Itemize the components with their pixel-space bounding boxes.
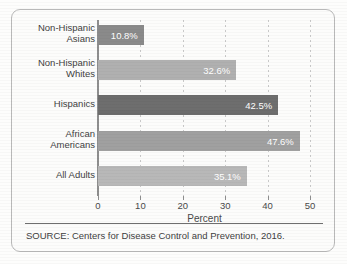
category-label: Non-Hispanic Whites [0,57,95,79]
bar-value-label: 35.1% [214,170,241,181]
category-label: Hispanics [0,98,95,109]
bar: 35.1% [98,166,247,186]
x-tick-label-50: 50 [295,200,325,211]
bar-value-label: 47.6% [267,135,294,146]
bar-value-label: 42.5% [245,100,272,111]
x-tick-label-40: 40 [253,200,283,211]
bar-row: Non-Hispanic Whites32.6% [12,56,336,91]
bar-value-label: 32.6% [203,65,230,76]
bar-row: Hispanics42.5% [12,91,336,126]
bar: 42.5% [98,95,278,115]
category-label: African Americans [0,128,95,150]
bar: 32.6% [98,60,236,80]
bar-row: All Adults35.1% [12,162,336,197]
category-label: All Adults [0,169,95,180]
bar: 47.6% [98,131,300,151]
footer-divider [25,223,323,224]
source-note: SOURCE: Centers for Disease Control and … [26,230,285,241]
bar-row: African Americans47.6% [12,127,336,162]
x-tick-label-20: 20 [168,200,198,211]
chart-frame: Non-Hispanic Asians10.8%Non-Hispanic Whi… [11,9,335,252]
x-tick-label-0: 0 [83,200,113,211]
x-tick-label-10: 10 [125,200,155,211]
x-tick-label-30: 30 [210,200,240,211]
bar: 10.8% [98,25,144,45]
plot-area: Non-Hispanic Asians10.8%Non-Hispanic Whi… [12,10,336,253]
category-label: Non-Hispanic Asians [0,22,95,44]
bar-row: Non-Hispanic Asians10.8% [12,21,336,56]
bar-value-label: 10.8% [111,30,138,41]
figure-container: Non-Hispanic Asians10.8%Non-Hispanic Whi… [0,0,347,264]
